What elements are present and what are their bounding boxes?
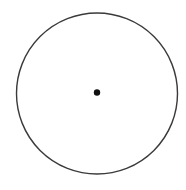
circle-diagram bbox=[0, 0, 186, 190]
center-point bbox=[94, 89, 100, 95]
diagram-canvas bbox=[0, 0, 186, 190]
